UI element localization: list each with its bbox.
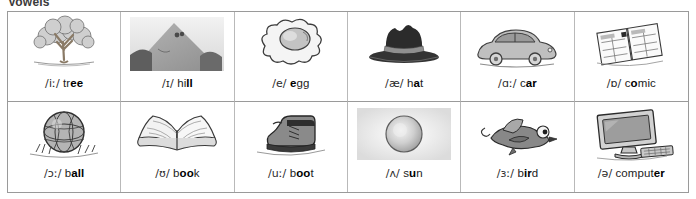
word-highlight: ar xyxy=(526,77,537,89)
ipa-symbol: /iː/ xyxy=(45,77,60,90)
vowel-caption: /æ/ hat xyxy=(385,75,423,90)
word-highlight: ee xyxy=(70,77,83,89)
word-highlight: er xyxy=(654,167,665,179)
ipa-symbol: /ɒ/ xyxy=(607,77,622,90)
bird-icon xyxy=(461,102,573,165)
comic-icon xyxy=(575,12,688,75)
ball-icon xyxy=(8,102,120,165)
vowel-caption: /ɔː/ ball xyxy=(44,165,84,180)
car-icon xyxy=(461,12,573,75)
vowels-table: /iː/ tree xyxy=(7,11,689,193)
vowel-caption: /ə/ computer xyxy=(598,165,665,180)
boot-icon xyxy=(235,102,347,165)
vowel-cell-ball[interactable]: /ɔː/ ball xyxy=(8,102,121,192)
vowel-cell-egg[interactable]: /e/ egg xyxy=(235,12,348,102)
vowel-caption: /ɜː/ bird xyxy=(497,165,539,180)
word-highlight: oo xyxy=(180,167,194,179)
vowel-caption: /iː/ tree xyxy=(45,75,83,90)
tree-icon xyxy=(8,12,120,75)
vowel-caption: /e/ egg xyxy=(272,75,309,90)
word-suffix: k xyxy=(194,167,200,179)
ipa-symbol: /ɪ/ xyxy=(162,77,174,90)
ipa-symbol: /ə/ xyxy=(598,167,612,180)
word-highlight: ir xyxy=(524,167,532,179)
vowel-caption: /ʌ/ sun xyxy=(386,165,423,180)
word-suffix: gg xyxy=(296,77,309,89)
word-suffix: d xyxy=(532,167,539,179)
hat-icon xyxy=(348,12,460,75)
word-suffix: t xyxy=(310,167,313,179)
ipa-symbol: /ɜː/ xyxy=(497,167,514,180)
vowel-cell-hat[interactable]: /æ/ hat xyxy=(348,12,461,102)
ipa-symbol: /ɑː/ xyxy=(498,77,517,90)
vowels-chart-page: Vowels xyxy=(0,0,696,199)
vowel-caption: /uː/ boot xyxy=(268,165,314,180)
vowel-cell-book[interactable]: /ʊ/ book xyxy=(121,102,234,192)
vowel-cell-bird[interactable]: /ɜː/ bird xyxy=(461,102,574,192)
ipa-symbol: /æ/ xyxy=(385,77,404,90)
page-title: Vowels xyxy=(8,0,50,7)
vowel-cell-computer[interactable]: /ə/ computer xyxy=(575,102,688,192)
book-icon xyxy=(121,102,233,165)
word-suffix: n xyxy=(416,167,423,179)
word-suffix: t xyxy=(420,77,423,89)
computer-icon xyxy=(575,102,688,165)
vowel-cell-hill[interactable]: /ɪ/ hill xyxy=(121,12,234,102)
vowel-cell-tree[interactable]: /iː/ tree xyxy=(8,12,121,102)
sun-icon xyxy=(348,102,460,165)
vowel-cell-car[interactable]: /ɑː/ car xyxy=(461,12,574,102)
vowel-caption: /ʊ/ book xyxy=(155,165,199,180)
word-suffix: mic xyxy=(638,77,656,89)
ipa-symbol: /e/ xyxy=(272,77,286,90)
vowel-caption: /ɒ/ comic xyxy=(607,75,656,90)
word-highlight: oo xyxy=(296,167,310,179)
ipa-symbol: /ɔː/ xyxy=(44,167,62,180)
word-prefix: comput xyxy=(616,167,654,179)
word-highlight: o xyxy=(631,77,638,89)
word-highlight: all xyxy=(71,167,84,179)
ipa-symbol: /ʊ/ xyxy=(155,167,170,180)
ipa-symbol: /ʌ/ xyxy=(386,167,400,180)
hill-icon xyxy=(121,12,233,75)
word-prefix: hi xyxy=(177,77,186,89)
ipa-symbol: /uː/ xyxy=(268,167,287,180)
vowel-cell-sun[interactable]: /ʌ/ sun xyxy=(348,102,461,192)
vowel-caption: /ɑː/ car xyxy=(498,75,537,90)
vowel-caption: /ɪ/ hill xyxy=(162,75,193,90)
vowel-cell-boot[interactable]: /uː/ boot xyxy=(235,102,348,192)
word-highlight: ll xyxy=(186,77,193,89)
egg-icon xyxy=(235,12,347,75)
vowel-cell-comic[interactable]: /ɒ/ comic xyxy=(575,12,688,102)
